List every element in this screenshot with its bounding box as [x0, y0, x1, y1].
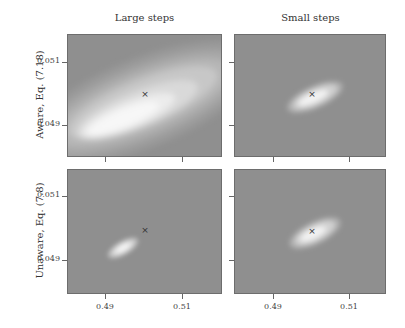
x-tick — [349, 157, 350, 162]
x-tick — [105, 294, 106, 299]
y-tick-label-0049-top: 0.049 — [30, 119, 60, 128]
density-plot-aware-small: × — [235, 35, 386, 157]
row-label-aware: Aware, Eq. (7.18) — [34, 35, 45, 155]
x-tick-label-051-left: 0.51 — [167, 302, 197, 311]
column-title-large-steps: Large steps — [67, 12, 222, 23]
column-title-small-steps: Small steps — [233, 12, 388, 23]
true-value-marker: × — [308, 226, 316, 236]
row-label-unaware: Unaware, Eq. (7.8) — [34, 171, 45, 291]
panel-aware-small-steps: × — [234, 34, 386, 157]
density-plot-unaware-small: × — [235, 170, 386, 294]
true-value-marker: × — [141, 89, 149, 99]
x-tick — [273, 157, 274, 162]
density-plot-unaware-large: × — [68, 170, 222, 294]
y-tick-label-0049-bottom: 0.049 — [30, 254, 60, 263]
true-value-marker: × — [141, 225, 149, 235]
x-tick-label-049-left: 0.49 — [90, 302, 120, 311]
panel-aware-large-steps: × — [67, 34, 222, 157]
x-tick — [182, 157, 183, 162]
x-tick-label-049-right: 0.49 — [258, 302, 288, 311]
x-tick — [273, 294, 274, 299]
x-tick-label-051-right: 0.51 — [334, 302, 364, 311]
true-value-marker: × — [308, 89, 316, 99]
panel-unaware-large-steps: × — [67, 169, 222, 294]
x-tick — [182, 294, 183, 299]
x-tick — [105, 157, 106, 162]
y-tick-label-0051-bottom: 0.051 — [30, 190, 60, 199]
y-tick-label-0051-top: 0.051 — [30, 56, 60, 65]
panel-unaware-small-steps: × — [234, 169, 386, 294]
density-plot-aware-large: × — [68, 35, 222, 157]
x-tick — [349, 294, 350, 299]
